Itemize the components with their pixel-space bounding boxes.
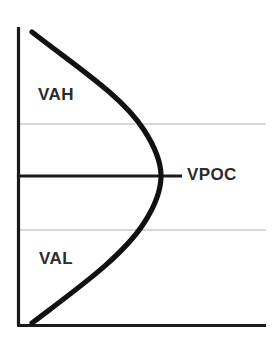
vpoc-label: VPOC <box>187 166 237 183</box>
val-label: VAL <box>39 250 73 267</box>
vah-label: VAH <box>38 86 74 103</box>
diagram-canvas <box>0 0 279 346</box>
volume-profile-diagram: VAH VAL VPOC <box>0 0 279 346</box>
plot-background <box>0 0 279 346</box>
